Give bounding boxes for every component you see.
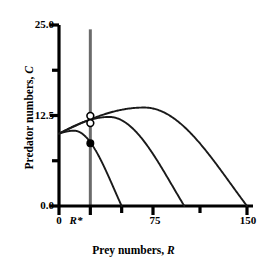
x-axis-title: Prey numbers, R bbox=[0, 245, 267, 257]
x-tick-label-150: 150 bbox=[234, 215, 262, 226]
y-axis-title-text: Predator numbers, bbox=[23, 77, 35, 170]
x-tick-label-75: 75 bbox=[143, 215, 167, 226]
curve-prey-isocline-medium bbox=[59, 117, 184, 206]
y-axis-title-variable: C bbox=[23, 66, 35, 74]
x-tick-label-rstar: R* bbox=[64, 215, 88, 226]
x-axis-title-text: Prey numbers, bbox=[92, 244, 164, 256]
y-tick-label-0: 0.0 bbox=[14, 200, 54, 211]
x-axis-title-variable: R bbox=[167, 244, 175, 256]
equilibrium-open-lower bbox=[87, 120, 94, 127]
chart-plot-area bbox=[0, 0, 267, 266]
figure-container: 25.0 12.5 0.0 0 R* 75 150 Prey numbers, … bbox=[0, 0, 267, 266]
equilibrium-filled bbox=[87, 140, 94, 147]
y-axis-title: Predator numbers, C bbox=[24, 38, 36, 198]
equilibrium-open-upper bbox=[87, 112, 94, 119]
y-tick-label-25: 25.0 bbox=[14, 19, 54, 30]
